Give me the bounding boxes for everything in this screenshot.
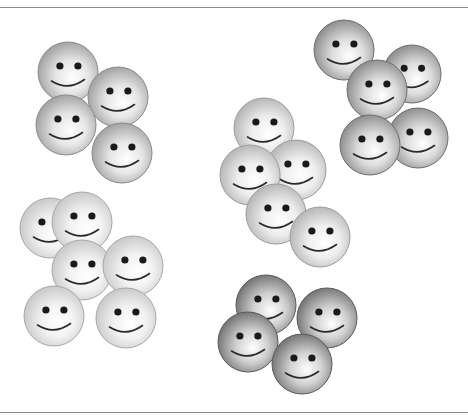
eye-icon: [88, 260, 95, 267]
smiley-face-icon: [92, 123, 152, 183]
eye-icon: [308, 354, 315, 361]
eye-icon: [264, 204, 271, 211]
smiley-face-icon: [340, 115, 400, 175]
eye-icon: [290, 354, 297, 361]
eye-icon: [60, 306, 67, 313]
eye-icon: [42, 306, 49, 313]
eye-icon: [70, 212, 77, 219]
smiley-face-icon: [218, 312, 278, 372]
cluster-middle: [220, 98, 350, 267]
eye-icon: [70, 260, 77, 267]
eye-icon: [282, 204, 289, 211]
eye-icon: [128, 143, 135, 150]
eye-icon: [254, 295, 261, 302]
eye-icon: [302, 160, 309, 167]
eye-icon: [139, 256, 146, 263]
eye-icon: [358, 135, 365, 142]
smiley-face-icon: [290, 207, 350, 267]
eye-icon: [132, 308, 139, 315]
eye-icon: [326, 227, 333, 234]
eye-icon: [236, 332, 243, 339]
eye-icon: [252, 118, 259, 125]
eye-icon: [121, 256, 128, 263]
bottom-divider: [0, 412, 468, 413]
smiley-face-icon: [24, 286, 84, 346]
eye-icon: [365, 80, 372, 87]
eye-icon: [124, 87, 131, 94]
eye-icon: [106, 87, 113, 94]
eye-icon: [114, 308, 121, 315]
smiley-face-icon: [103, 236, 163, 296]
eye-icon: [270, 118, 277, 125]
smiley-face-icon: [347, 60, 407, 120]
eye-icon: [256, 165, 263, 172]
smiley-face-icon: [36, 95, 96, 155]
eye-icon: [418, 65, 425, 72]
eye-icon: [56, 62, 63, 69]
eye-icon: [110, 143, 117, 150]
smiley-face-icon: [96, 288, 156, 348]
eye-icon: [383, 80, 390, 87]
eye-icon: [315, 308, 322, 315]
eye-icon: [308, 227, 315, 234]
eye-icon: [254, 332, 261, 339]
cluster-top-right: [314, 20, 448, 175]
eye-icon: [72, 115, 79, 122]
eye-icon: [284, 160, 291, 167]
eye-icon: [333, 308, 340, 315]
cluster-bottom-left: [20, 192, 163, 348]
eye-icon: [406, 128, 413, 135]
eye-icon: [332, 40, 339, 47]
eye-icon: [424, 128, 431, 135]
eye-icon: [350, 40, 357, 47]
faces-layer: [20, 20, 448, 394]
eye-icon: [272, 295, 279, 302]
smiley-face-icon: [272, 334, 332, 394]
eye-icon: [88, 212, 95, 219]
eye-icon: [376, 135, 383, 142]
cluster-top-left: [36, 42, 152, 183]
eye-icon: [401, 65, 408, 72]
eye-icon: [74, 62, 81, 69]
eye-icon: [238, 165, 245, 172]
smiley-face-icon: [88, 67, 148, 127]
cluster-bottom-center: [218, 275, 357, 394]
eye-icon: [38, 218, 45, 225]
smiley-clusters-figure: [0, 0, 468, 416]
eye-icon: [54, 115, 61, 122]
